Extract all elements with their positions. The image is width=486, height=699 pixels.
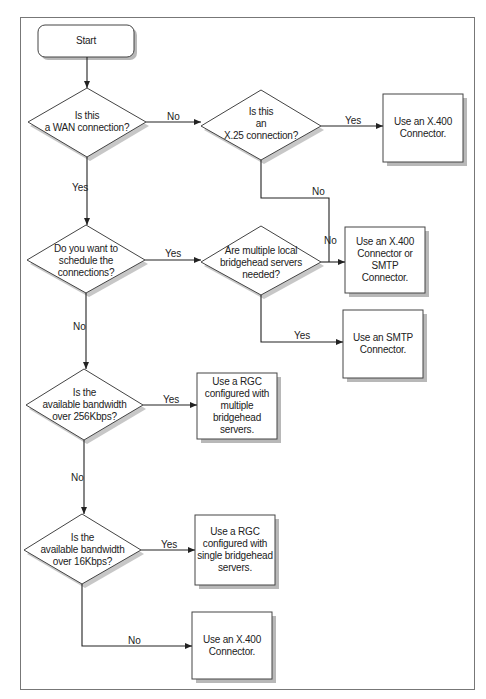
edge-label-d2-yes: Yes [345,115,361,126]
edge-label-d4-no: No [324,235,337,246]
decision-256kbps-label: Is the available bandwidth over 256Kbps? [26,383,143,427]
edge-label-d6-yes: Yes [161,539,177,550]
edge-label-d1-yes: Yes [72,182,88,193]
outcome-x400-2-label: Use an X.400 Connector. [192,612,272,679]
edge-label-d3-yes: Yes [165,248,181,259]
edge-label-d6-no: No [128,635,141,646]
decision-wan-label: Is this a WAN connection? [28,104,146,140]
outcome-rgc-multiple-label: Use a RGC configured with multiple bridg… [197,373,277,439]
edge-label-d4-yes: Yes [294,330,310,341]
outcome-smtp-label: Use an SMTP Connector. [343,310,423,378]
edge-label-d3-no: No [73,321,86,332]
decision-schedule-label: Do you want to schedule the connections? [27,239,145,283]
start-label: Start [38,25,134,57]
decision-multiple-bridgehead-label: Are multiple local bridgehead servers ne… [201,241,321,285]
decision-16kbps-label: Is the available bandwidth over 16Kbps? [24,528,141,572]
outcome-x400-1-label: Use an X.400 Connector. [383,94,463,162]
decision-x25-label: Is this an X.25 connection? [201,102,321,146]
edge-label-d5-no: No [71,472,84,483]
edge-label-d5-yes: Yes [163,394,179,405]
edge-label-d2-no: No [312,186,325,197]
outcome-rgc-single-label: Use a RGC configured with single bridgeh… [195,515,275,585]
edge-label-d1-no: No [167,111,180,122]
outcome-x400-or-smtp-label: Use an X.400 Connector or SMTP Connector… [345,227,425,293]
